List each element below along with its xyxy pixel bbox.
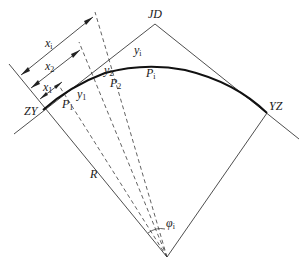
- label-y1: y1: [77, 88, 86, 102]
- dim-line-xi: [21, 17, 93, 75]
- label-pi: Pi: [146, 67, 156, 81]
- label-zy: ZY: [24, 105, 37, 117]
- arrow-x2-start: [31, 80, 40, 88]
- curve-setting-out-diagram: JD ZY YZ P1 P2 Pi xi x2 x1 y1 y2 yi R φi: [0, 0, 301, 266]
- label-p1: P1: [62, 98, 73, 112]
- label-y2: y2: [104, 64, 113, 78]
- label-yz: YZ: [269, 100, 282, 112]
- arrow-x2-end: [71, 50, 80, 58]
- label-jd: JD: [148, 8, 162, 20]
- label-p2: P2: [110, 77, 121, 91]
- label-radius: R: [90, 168, 97, 180]
- label-x1: x1: [43, 81, 52, 95]
- right-tangent-line: [155, 24, 299, 139]
- label-yi: yi: [134, 44, 142, 58]
- arrow-xi-start: [21, 67, 30, 75]
- zy-radius-line: [9, 64, 167, 257]
- label-angle: φi: [166, 217, 175, 231]
- arrow-xi-end: [84, 17, 93, 25]
- label-xi: xi: [45, 37, 53, 51]
- dashed-line-pi: [95, 12, 167, 257]
- yz-radius-line: [167, 113, 267, 257]
- label-x2: x2: [45, 60, 54, 74]
